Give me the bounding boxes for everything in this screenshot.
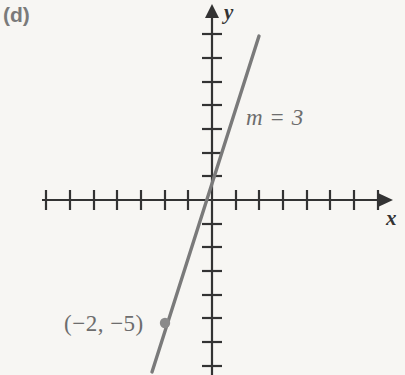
y-axis [205,4,219,375]
coordinate-plane [0,0,405,375]
slope-annotation: m = 3 [246,106,304,129]
marked-point [160,318,170,328]
point-coordinate-label: (−2, −5) [64,312,144,335]
part-label: (d) [3,4,30,25]
x-axis-label: x [386,208,397,229]
x-axis-arrowhead [378,193,393,207]
y-axis-label: y [224,2,233,23]
y-axis-arrowhead [205,4,219,18]
graph-figure: (d) y x m = 3 (−2, −5) [0,0,405,375]
